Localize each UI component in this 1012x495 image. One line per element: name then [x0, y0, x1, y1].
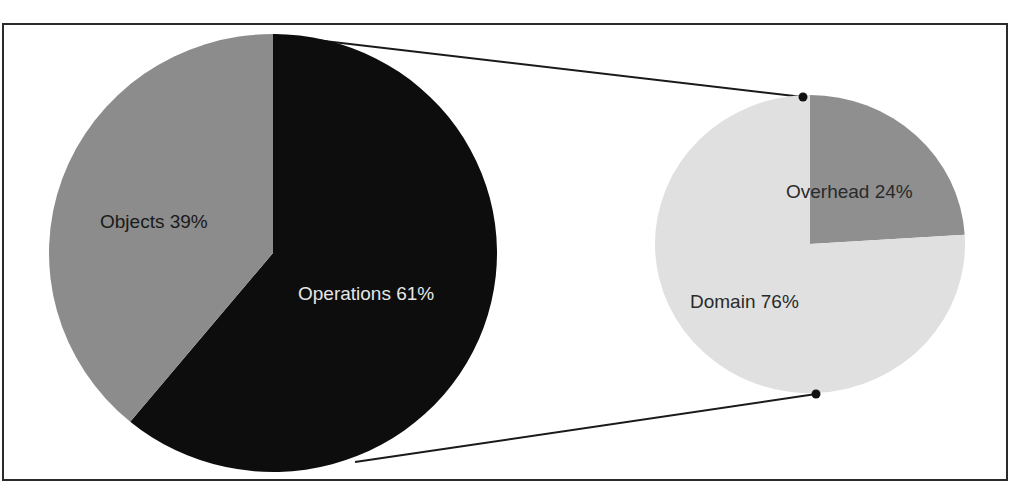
pie-of-pie-chart: Objects 39% Operations 61% Overhead 24% …	[0, 0, 1012, 495]
connector-dot-bottom	[812, 390, 821, 399]
label-overhead: Overhead 24%	[786, 181, 913, 202]
label-operations: Operations 61%	[298, 283, 434, 304]
slice-overhead	[810, 95, 965, 244]
connector-dot-top	[799, 93, 808, 102]
label-domain: Domain 76%	[690, 291, 799, 312]
main-pie	[49, 34, 497, 472]
label-objects: Objects 39%	[100, 211, 208, 232]
secondary-pie	[655, 95, 965, 393]
